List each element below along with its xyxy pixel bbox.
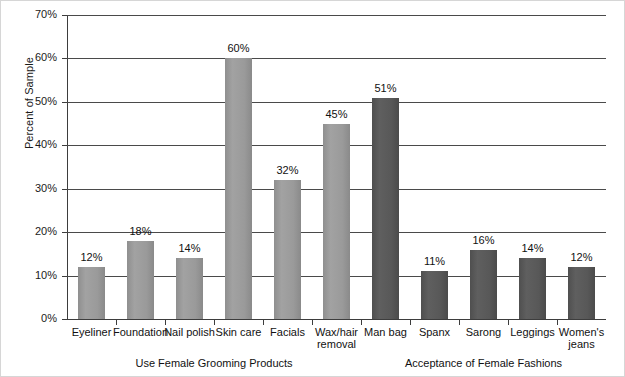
bar — [127, 241, 154, 319]
y-tick-label: 40% — [13, 138, 57, 150]
x-tick-mark — [116, 320, 117, 325]
y-tick-mark — [62, 145, 67, 146]
y-tick-label: 20% — [13, 225, 57, 237]
y-tick-mark — [62, 15, 67, 16]
x-tick-mark — [410, 320, 411, 325]
bar-value-label: 18% — [117, 225, 165, 237]
bar-value-label: 16% — [460, 234, 508, 246]
x-category-label: Women's jeans — [546, 326, 618, 350]
bar — [78, 267, 105, 319]
bar-value-label: 12% — [558, 251, 606, 263]
gridline — [67, 15, 606, 16]
x-group-label: Acceptance of Female Fashions — [364, 357, 604, 369]
bar — [225, 58, 252, 319]
y-tick-label: 50% — [13, 95, 57, 107]
y-tick-label: 10% — [13, 269, 57, 281]
bar-value-label: 11% — [411, 255, 459, 267]
bar-value-label: 14% — [166, 242, 214, 254]
x-axis-line — [67, 319, 606, 320]
y-tick-mark — [62, 232, 67, 233]
bar-value-label: 32% — [264, 164, 312, 176]
bar-value-label: 45% — [313, 108, 361, 120]
x-tick-mark — [263, 320, 264, 325]
x-tick-mark — [214, 320, 215, 325]
x-group-label: Use Female Grooming Products — [94, 357, 334, 369]
y-tick-label: 0% — [13, 312, 57, 324]
bar-value-label: 14% — [509, 242, 557, 254]
bar — [176, 258, 203, 319]
bar-chart: Percent of Sample 12%18%14%60%32%45%51%1… — [0, 0, 625, 377]
bar — [519, 258, 546, 319]
bar-value-label: 12% — [68, 251, 116, 263]
plot-area: 12%18%14%60%32%45%51%11%16%14%12% — [67, 15, 606, 320]
y-tick-label: 60% — [13, 51, 57, 63]
y-tick-label: 70% — [13, 8, 57, 20]
x-tick-mark — [312, 320, 313, 325]
x-tick-mark — [557, 320, 558, 325]
bar — [421, 271, 448, 319]
x-tick-mark — [165, 320, 166, 325]
bar-value-label: 51% — [362, 82, 410, 94]
y-axis-line — [67, 15, 68, 320]
x-tick-mark — [459, 320, 460, 325]
bar — [274, 180, 301, 319]
y-tick-mark — [62, 189, 67, 190]
x-tick-mark — [361, 320, 362, 325]
bar — [568, 267, 595, 319]
bar-value-label: 60% — [215, 42, 263, 54]
y-tick-mark — [62, 276, 67, 277]
x-tick-mark — [508, 320, 509, 325]
y-tick-label: 30% — [13, 182, 57, 194]
y-tick-mark — [62, 319, 67, 320]
bar — [470, 250, 497, 319]
y-tick-mark — [62, 58, 67, 59]
bar — [372, 98, 399, 319]
bar — [323, 124, 350, 319]
y-tick-mark — [62, 102, 67, 103]
gridline — [67, 58, 606, 59]
gridline — [67, 102, 606, 103]
